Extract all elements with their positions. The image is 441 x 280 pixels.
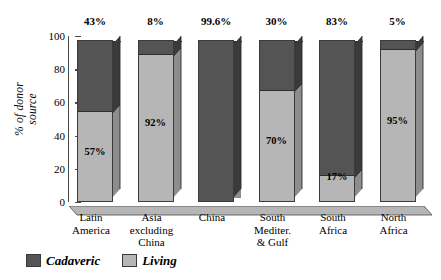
category-label-line: Mediter. — [242, 224, 304, 237]
bar-side-face — [173, 36, 181, 198]
legend-item[interactable]: Living — [122, 254, 177, 267]
category-label-line: North — [363, 211, 425, 224]
bar-total-label: 5% — [376, 16, 420, 27]
x-axis-category-label: AsiaexcludingChina — [121, 211, 183, 249]
y-axis-tick-label: 80 — [54, 64, 65, 75]
x-axis-category-label: SouthAfrica — [302, 211, 364, 236]
y-axis-tick-label: 40 — [54, 130, 65, 141]
y-axis-tick-label: 20 — [54, 163, 65, 174]
category-label-line: South — [302, 211, 364, 224]
bar-total-label: 43% — [73, 16, 117, 27]
y-axis-title: % of donor source — [4, 58, 48, 168]
x-axis-category-label: SouthMediter.& Gulf — [242, 211, 304, 249]
segment-cadaveric[interactable] — [381, 41, 415, 49]
category-label-line: & Gulf — [242, 236, 304, 249]
bar[interactable]: 99.6% — [198, 36, 242, 202]
category-label-line: excluding — [121, 224, 183, 237]
bar-side-face — [294, 36, 302, 198]
plot-area: 020406080100 57%43%92%8%99.6%70%30%17%83… — [56, 30, 434, 208]
segment-value-label: 92% — [138, 118, 174, 129]
bar-side-face — [354, 36, 362, 198]
y-axis-tick-label: 0 — [60, 197, 66, 208]
y-axis-tick-label: 100 — [49, 31, 66, 42]
category-label-line: Africa — [363, 224, 425, 237]
bar-group: 57%43%92%8%99.6%70%30%17%83%95%5% — [69, 36, 435, 202]
y-axis-title-line-1: % of donor — [13, 54, 26, 164]
segment-divider — [78, 111, 112, 112]
category-label-line: Africa — [302, 224, 364, 237]
segment-value-label: 17% — [319, 172, 355, 183]
segment-value-label: 70% — [259, 136, 295, 147]
segment-cadaveric[interactable] — [260, 41, 294, 90]
bar[interactable]: 57%43% — [77, 36, 121, 202]
category-label-line: China — [181, 211, 243, 224]
bar[interactable]: 95%5% — [380, 36, 424, 202]
bar-total-label: 30% — [255, 16, 299, 27]
bar-side-face — [233, 36, 241, 198]
segment-cadaveric[interactable] — [139, 41, 173, 54]
bar-total-label: 99.6% — [194, 16, 238, 27]
bar-side-face — [415, 36, 423, 198]
legend-swatch — [122, 254, 137, 267]
segment-value-label: 95% — [380, 116, 416, 127]
segment-value-label: 57% — [77, 147, 113, 158]
donor-source-chart: % of donor source 020406080100 57%43%92%… — [0, 0, 441, 280]
x-axis-category-label: LatinAmerica — [60, 211, 122, 236]
y-axis-title-line-2: source — [26, 54, 39, 164]
bar[interactable]: 17%83% — [319, 36, 363, 202]
category-label-line: China — [121, 236, 183, 249]
bar-front-face — [198, 40, 234, 202]
segment-cadaveric[interactable] — [320, 41, 354, 175]
legend-label: Cadaveric — [46, 254, 100, 267]
category-label-line: Latin — [60, 211, 122, 224]
category-label-line: South — [242, 211, 304, 224]
bar-side-face — [112, 36, 120, 198]
x-axis-category-label: NorthAfrica — [363, 211, 425, 236]
bar-front-face — [77, 40, 113, 202]
bar-front-face — [259, 40, 295, 202]
segment-cadaveric[interactable] — [78, 41, 112, 111]
segment-divider — [139, 54, 173, 55]
bar[interactable]: 92%8% — [138, 36, 182, 202]
segment-cadaveric[interactable] — [199, 41, 233, 202]
bar-total-label: 8% — [134, 16, 178, 27]
category-label-line: Asia — [121, 211, 183, 224]
category-label-line: America — [60, 224, 122, 237]
y-axis-tick-label: 60 — [54, 97, 65, 108]
chart-legend: CadavericLiving — [26, 250, 199, 270]
x-axis-category-label: China — [181, 211, 243, 224]
bar-total-label: 83% — [315, 16, 359, 27]
legend-item[interactable]: Cadaveric — [26, 254, 100, 267]
segment-divider — [381, 49, 415, 50]
legend-label: Living — [142, 254, 177, 267]
legend-swatch — [26, 254, 41, 267]
segment-divider — [260, 90, 294, 91]
bar[interactable]: 70%30% — [259, 36, 303, 202]
